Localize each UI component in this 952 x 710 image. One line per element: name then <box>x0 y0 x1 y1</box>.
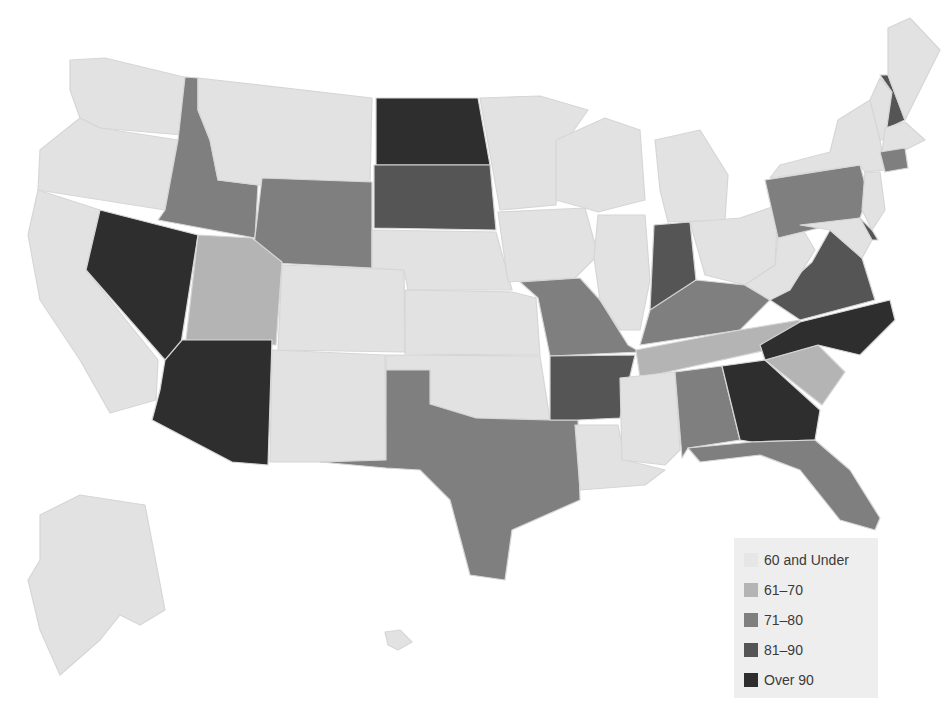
legend-item-over-90: Over 90 <box>744 670 814 690</box>
state-massachusetts <box>882 122 925 152</box>
legend-label: 81–90 <box>764 642 803 658</box>
legend: 60 and Under 61–70 71–80 81–90 Over 90 <box>734 538 878 698</box>
state-new-york <box>770 100 885 178</box>
legend-label: 61–70 <box>764 582 803 598</box>
state-iowa <box>498 208 598 282</box>
state-north-dakota <box>376 98 490 165</box>
legend-label: 71–80 <box>764 612 803 628</box>
legend-swatch <box>744 583 758 597</box>
state-hawaii <box>385 630 412 650</box>
legend-swatch <box>744 613 758 627</box>
legend-swatch <box>744 673 758 687</box>
legend-item-71-80: 71–80 <box>744 610 803 630</box>
state-connecticut <box>880 148 908 172</box>
state-florida <box>688 440 880 530</box>
state-alaska <box>28 495 165 675</box>
legend-swatch <box>744 553 758 567</box>
state-arizona <box>152 340 272 465</box>
legend-item-81-90: 81–90 <box>744 640 803 660</box>
state-colorado <box>278 265 405 352</box>
state-new-mexico <box>270 350 386 462</box>
state-new-jersey <box>862 172 885 230</box>
legend-label: 60 and Under <box>764 552 849 568</box>
state-kansas <box>405 290 540 355</box>
state-south-dakota <box>374 165 496 230</box>
state-utah <box>186 235 282 345</box>
legend-swatch <box>744 643 758 657</box>
state-mississippi <box>620 372 680 465</box>
legend-item-61-70: 61–70 <box>744 580 803 600</box>
state-michigan <box>655 130 728 222</box>
state-montana <box>198 78 372 185</box>
legend-label: Over 90 <box>764 672 814 688</box>
legend-item-60-and-under: 60 and Under <box>744 550 849 570</box>
